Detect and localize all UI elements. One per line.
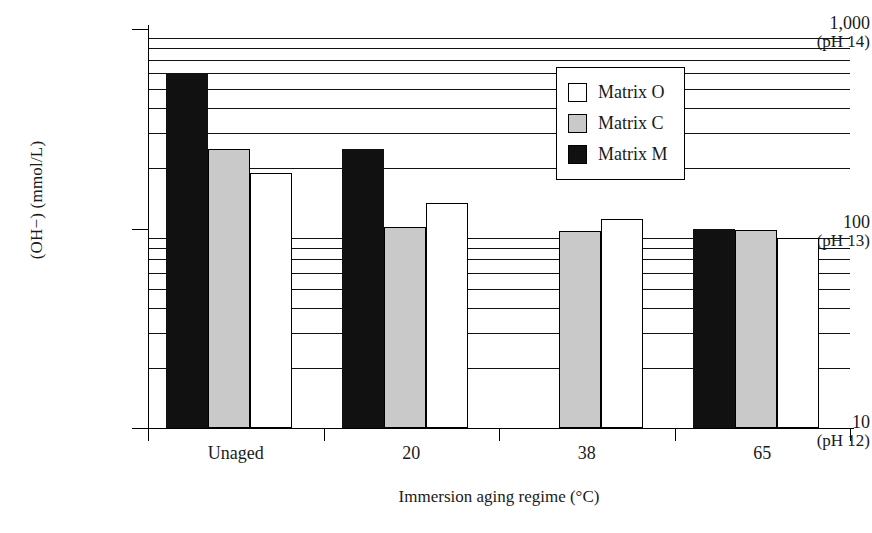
bar-38-matrix-o [601,219,643,428]
bar-20-matrix-o [426,203,468,429]
gridline [148,133,850,134]
x-tick-mark [499,428,500,441]
y-axis-title: (OH−) (mmol/L) [27,105,47,295]
x-tick-label-unaged: Unaged [148,443,324,464]
bar-chart: (OH−) (mmol/L) 1,000 (pH 14) 100 (pH 13)… [0,0,872,533]
bar-38-matrix-c [559,231,601,428]
gridline [148,168,850,169]
bar-unaged-matrix-m [166,73,208,428]
x-tick-mark [850,428,851,441]
gridline [148,48,850,49]
x-axis-title: Immersion aging regime (°C) [148,487,850,507]
legend-item-matrix-c[interactable]: Matrix C [568,108,668,139]
bar-unaged-matrix-c [208,149,250,428]
x-tick-label-20: 20 [324,443,500,464]
bar-65-matrix-c [735,230,777,428]
gridline [148,73,850,74]
bar-unaged-matrix-o [250,173,292,428]
x-tick-label-65: 65 [675,443,851,464]
legend-label-matrix-c: Matrix C [598,113,664,134]
legend-swatch-icon-matrix-o [568,83,587,102]
y-tick-mark [132,29,149,30]
chart-legend: Matrix O Matrix C Matrix M [556,67,685,180]
legend-label-matrix-m: Matrix M [598,144,668,165]
x-tick-label-38: 38 [499,443,675,464]
legend-swatch-icon-matrix-c [568,114,587,133]
x-tick-mark [675,428,676,441]
gridline [148,89,850,90]
legend-swatch-icon-matrix-m [568,145,587,164]
legend-item-matrix-m[interactable]: Matrix M [568,139,668,170]
gridline [148,60,850,61]
bar-65-matrix-o [777,238,819,428]
x-tick-mark [148,428,149,441]
legend-item-matrix-o[interactable]: Matrix O [568,77,668,108]
bar-20-matrix-m [342,149,384,428]
gridline [148,38,850,39]
legend-label-matrix-o: Matrix O [598,82,665,103]
gridline [148,108,850,109]
x-tick-mark [324,428,325,441]
bar-20-matrix-c [384,227,426,428]
bar-65-matrix-m [693,229,735,429]
y-tick-mark [132,428,149,429]
y-tick-mark [132,229,149,230]
plot-area [148,29,850,428]
